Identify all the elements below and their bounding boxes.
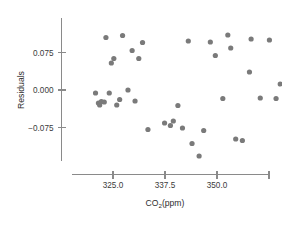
data-point xyxy=(197,153,202,158)
data-point xyxy=(267,37,272,42)
data-point xyxy=(109,60,114,65)
data-point xyxy=(233,136,238,141)
data-point xyxy=(240,138,245,143)
x-tick-label: 325.0 xyxy=(103,181,124,190)
data-point xyxy=(107,90,112,95)
data-point xyxy=(258,95,263,100)
data-point xyxy=(247,69,252,74)
data-point xyxy=(103,35,108,40)
data-point xyxy=(136,56,141,61)
data-point xyxy=(168,123,173,128)
data-point xyxy=(140,40,145,45)
data-point xyxy=(201,128,206,133)
data-point xyxy=(225,32,230,37)
data-point xyxy=(114,102,119,107)
data-point xyxy=(132,98,137,103)
data-point xyxy=(162,120,167,125)
data-point xyxy=(93,90,98,95)
data-point xyxy=(278,81,282,86)
data-point xyxy=(145,127,150,132)
data-point xyxy=(249,36,254,41)
data-point xyxy=(189,141,194,146)
data-point xyxy=(117,97,122,102)
data-point xyxy=(125,87,130,92)
data-point xyxy=(120,33,125,38)
y-axis-title: Residuals xyxy=(16,71,26,109)
data-point xyxy=(273,96,278,101)
data-point xyxy=(175,103,180,108)
data-point xyxy=(186,38,191,43)
data-point xyxy=(130,48,135,53)
x-tick-label: 350.0 xyxy=(207,181,228,190)
data-point xyxy=(228,45,233,50)
data-point xyxy=(213,53,218,58)
y-tick-label: 0.075 xyxy=(33,49,54,58)
data-point xyxy=(171,118,176,123)
data-point xyxy=(102,99,107,104)
y-tick-label: −0.075 xyxy=(28,124,54,133)
x-axis: 325.0337.5350.0 xyxy=(72,171,270,190)
x-axis-title: CO2(ppm) xyxy=(146,198,185,209)
x-tick-label: 337.5 xyxy=(155,181,176,190)
data-point xyxy=(220,96,225,101)
data-point xyxy=(208,39,213,44)
y-tick-label: 0.000 xyxy=(33,86,54,95)
data-points-group xyxy=(93,32,282,158)
data-point xyxy=(111,56,116,61)
scatter-chart-residuals-vs-co2: 0.0750.000−0.075 325.0337.5350.0 Residua… xyxy=(0,0,282,226)
plot-area: 0.0750.000−0.075 325.0337.5350.0 Residua… xyxy=(0,0,282,226)
y-axis: 0.0750.000−0.075 xyxy=(28,18,65,161)
data-point xyxy=(180,125,185,130)
